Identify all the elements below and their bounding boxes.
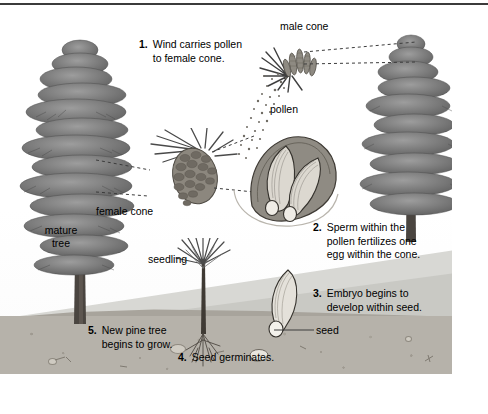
mature-pine-tree <box>16 24 146 324</box>
step-1-callout: 1. Wind carries pollen to female cone. <box>139 38 242 65</box>
pebble <box>48 358 57 365</box>
step-1-text: Wind carries pollen to female cone. <box>153 38 242 65</box>
falling-winged-seed <box>252 264 312 344</box>
step-3-number: 3. <box>313 287 322 314</box>
figure-top-border <box>0 3 488 5</box>
step-2-number: 2. <box>313 221 322 262</box>
step-5-number: 5. <box>88 324 97 351</box>
label-female-cone: female cone <box>96 205 153 218</box>
label-seedling: seedling <box>148 253 187 266</box>
illustration-plate: male cone pollen female cone mature tree… <box>0 6 452 374</box>
step-4-number: 4. <box>178 351 187 365</box>
step-2-text: Sperm within the pollen fertilizes one e… <box>327 221 420 262</box>
pebble <box>405 336 412 342</box>
label-mature-tree-line1: mature <box>32 224 90 237</box>
step-4-callout: 4. Seed germinates. <box>178 351 274 365</box>
step-2-callout: 2. Sperm within the pollen fertilizes on… <box>313 221 420 262</box>
pine-life-cycle-figure: male cone pollen female cone mature tree… <box>0 0 488 414</box>
step-3-callout: 3. Embryo begins to develop within seed. <box>313 287 422 314</box>
label-male-cone: male cone <box>280 20 328 33</box>
label-pollen: pollen <box>270 103 298 116</box>
female-cone <box>143 128 239 212</box>
label-mature-tree-line2: tree <box>32 237 90 250</box>
step-4-text: Seed germinates. <box>192 351 274 365</box>
step-5-text: New pine tree begins to grow. <box>102 324 173 351</box>
label-seed: seed <box>316 324 339 337</box>
background-pine-tree <box>356 22 452 242</box>
step-1-number: 1. <box>139 38 148 65</box>
label-mature-tree: mature tree <box>32 224 90 250</box>
step-3-text: Embryo begins to develop within seed. <box>327 287 422 314</box>
step-5-callout: 5. New pine tree begins to grow. <box>88 324 172 351</box>
